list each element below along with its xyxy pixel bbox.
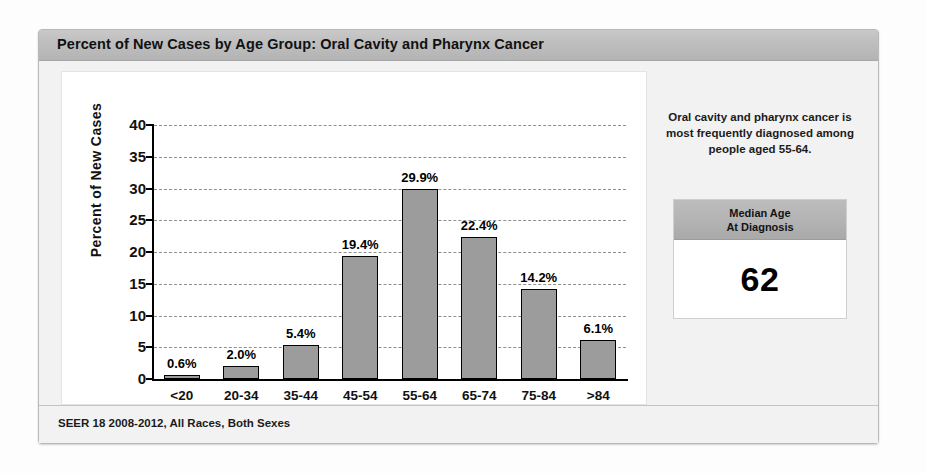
card-title-bar: Percent of New Cases by Age Group: Oral … [39,30,878,61]
y-axis-tick [146,378,154,380]
y-axis-tick-label: 10 [112,307,146,324]
y-axis-tick-label: 0 [112,370,146,387]
bar-value-label: 5.4% [265,326,337,341]
y-gridline [154,125,626,126]
median-age-label-line2: At Diagnosis [726,220,793,234]
y-axis-tick [146,283,154,285]
y-axis-tick-label: 40 [112,116,146,133]
bar-chart-plot: Percent of New Cases Age 051015202530354… [62,72,646,404]
chart-screenshot: Percent of New Cases by Age Group: Oral … [0,0,926,473]
bar[interactable] [580,340,616,379]
y-axis-tick [146,124,154,126]
bar-value-label: 19.4% [324,237,396,252]
source-note: SEER 18 2008-2012, All Races, Both Sexes [58,417,290,429]
bar-value-label: 14.2% [503,270,575,285]
bar[interactable] [402,189,438,379]
x-axis-category-label: >84 [562,388,634,403]
y-axis-tick [146,219,154,221]
y-axis-tick-label: 15 [112,275,146,292]
side-info-column: Oral cavity and pharynx cancer is most f… [661,71,859,405]
y-gridline [154,157,626,158]
y-axis-tick-label: 5 [112,338,146,355]
bar[interactable] [342,256,378,379]
median-age-box: Median Age At Diagnosis 62 [673,199,847,319]
bar[interactable] [521,289,557,379]
y-axis-tick [146,315,154,317]
y-axis-tick [146,346,154,348]
bar-value-label: 22.4% [443,218,515,233]
y-gridline [154,252,626,253]
card-footer-bar: SEER 18 2008-2012, All Races, Both Sexes [39,405,878,443]
side-note-text: Oral cavity and pharynx cancer is most f… [661,109,859,157]
median-age-label-line1: Median Age [729,206,790,220]
x-axis-line [152,379,628,381]
y-axis-tick-label: 35 [112,148,146,165]
bar[interactable] [223,366,259,379]
y-gridline [154,189,626,190]
median-age-value: 62 [674,240,846,319]
y-axis-tick-label: 20 [112,243,146,260]
bar-value-label: 6.1% [562,321,634,336]
page-title: Percent of New Cases by Age Group: Oral … [57,36,544,52]
chart-card: Percent of New Cases by Age Group: Oral … [38,29,879,444]
bar-value-label: 2.0% [205,347,277,362]
y-axis-tick-label: 30 [112,180,146,197]
bar[interactable] [283,345,319,379]
median-age-header: Median Age At Diagnosis [674,200,846,240]
y-axis-tick [146,156,154,158]
y-axis-title: Percent of New Cases [88,50,104,310]
y-axis-tick-label: 25 [112,211,146,228]
bar-value-label: 29.9% [384,170,456,185]
y-gridline [154,220,626,221]
chart-panel: Percent of New Cases Age 051015202530354… [61,71,647,405]
bar[interactable] [164,375,200,379]
y-axis-tick [146,251,154,253]
y-axis-tick [146,188,154,190]
bar[interactable] [461,237,497,379]
